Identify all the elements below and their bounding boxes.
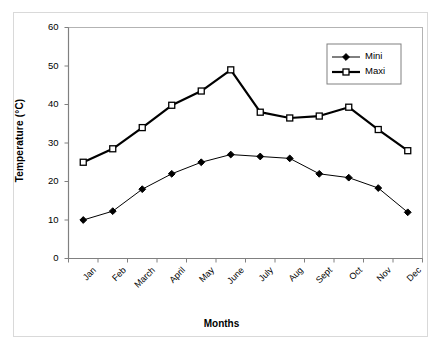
chart-container: Temperature (°C) Months 0102030405060 Ja… bbox=[0, 0, 443, 356]
data-series-group bbox=[80, 67, 411, 224]
series-mini bbox=[80, 151, 411, 223]
y-tick-label: 40 bbox=[35, 98, 59, 109]
x-axis-title: Months bbox=[0, 318, 443, 329]
y-tick-label: 10 bbox=[35, 214, 59, 225]
legend-box bbox=[327, 44, 401, 84]
y-axis-title: Temperature (°C) bbox=[14, 91, 25, 191]
legend-item-maxi: Maxi bbox=[365, 65, 385, 76]
y-tick-label: 30 bbox=[35, 137, 59, 148]
legend-item-mini: Mini bbox=[365, 50, 382, 61]
y-tick-label: 20 bbox=[35, 175, 59, 186]
y-tick-label: 0 bbox=[35, 252, 59, 263]
y-tick-label: 50 bbox=[35, 60, 59, 71]
y-tick-label: 60 bbox=[35, 21, 59, 32]
